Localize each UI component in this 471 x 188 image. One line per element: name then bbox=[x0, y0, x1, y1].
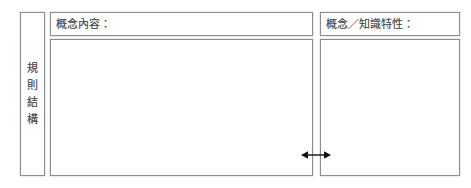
rule-structure-label-cell: 規 則 結 構 bbox=[20, 12, 45, 176]
concept-content-header-label: 概念內容： bbox=[56, 18, 111, 31]
concept-content-header-cell: 概念內容： bbox=[50, 12, 313, 36]
double-headed-horizontal-arrow-icon[interactable] bbox=[301, 148, 331, 162]
concept-attribute-header-cell: 概念／知識特性： bbox=[320, 12, 460, 36]
concept-attribute-header-label: 概念／知識特性： bbox=[326, 18, 414, 31]
rule-structure-vertical-text: 規 則 結 構 bbox=[21, 60, 44, 128]
concept-attribute-input-area[interactable] bbox=[320, 39, 460, 176]
concept-content-input-area[interactable] bbox=[50, 39, 313, 176]
rule-structure-form: 規 則 結 構 概念內容： 概念／知識特性： bbox=[0, 0, 471, 188]
